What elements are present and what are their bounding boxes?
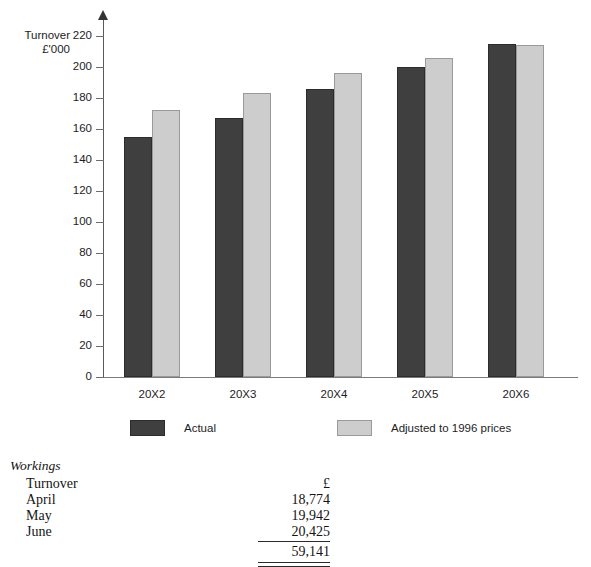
bar-group-20X5	[397, 36, 453, 377]
workings-row: May19,942	[0, 508, 591, 524]
legend-item-1[interactable]: Actual	[130, 420, 216, 436]
workings-row-value: £	[258, 476, 330, 492]
chart-legend: ActualAdjusted to 1996 prices	[0, 420, 591, 446]
y-axis-tick-label-100: 100	[52, 216, 92, 228]
y-axis-tick-100	[96, 222, 104, 223]
y-axis-tick-label-0: 0	[52, 371, 92, 383]
workings-row-value: 18,774	[258, 492, 330, 508]
legend-label-1: Actual	[184, 422, 216, 435]
workings-row-label: May	[26, 508, 52, 524]
y-axis-tick-label-120: 120	[52, 185, 92, 197]
y-axis-tick-220	[96, 36, 104, 37]
y-axis-tick-label-200: 200	[52, 61, 92, 73]
workings-row: June20,425	[0, 524, 591, 540]
bar-20X5-adjusted[interactable]	[425, 58, 453, 377]
bar-20X6-actual[interactable]	[488, 44, 516, 377]
workings-row-label: April	[26, 492, 56, 508]
workings-total-double-rule	[258, 562, 330, 567]
bar-20X4-actual[interactable]	[306, 89, 334, 377]
x-axis-label-20X5: 20X5	[390, 388, 460, 400]
workings-row-label: Turnover	[26, 476, 78, 492]
y-axis-tick-20	[96, 346, 104, 347]
y-axis-tick-60	[96, 284, 104, 285]
y-axis-tick-200	[96, 67, 104, 68]
y-axis-tick-160	[96, 129, 104, 130]
y-axis-tick-120	[96, 191, 104, 192]
legend-swatch-actual	[130, 420, 165, 436]
legend-swatch-adjusted	[337, 420, 372, 436]
y-axis-tick-label-60: 60	[52, 278, 92, 290]
y-axis-tick-label-140: 140	[52, 154, 92, 166]
workings-row: April18,774	[0, 492, 591, 508]
bar-group-20X6	[488, 36, 544, 377]
workings-row-value: 19,942	[258, 508, 330, 524]
x-axis-label-20X6: 20X6	[481, 388, 551, 400]
workings-heading: Workings	[10, 458, 61, 473]
bar-20X2-adjusted[interactable]	[152, 110, 180, 377]
y-axis-tick-label-160: 160	[52, 123, 92, 135]
y-axis-tick-label-220: 220	[52, 30, 92, 42]
legend-item-2[interactable]: Adjusted to 1996 prices	[337, 420, 511, 436]
workings-total-value: 59,141	[258, 544, 330, 560]
y-axis-title-line-2: £'000	[4, 42, 70, 56]
workings-total-row: 59,141	[0, 544, 591, 560]
bar-group-20X3	[215, 36, 271, 377]
bar-group-20X4	[306, 36, 362, 377]
x-axis-label-20X3: 20X3	[208, 388, 278, 400]
workings-subtotal-rule	[258, 541, 330, 542]
x-axis-line	[103, 377, 578, 378]
y-axis-arrow-icon	[98, 10, 108, 20]
y-axis-tick-180	[96, 98, 104, 99]
bar-chart: Turnover £'000 0204060801001201401601802…	[0, 0, 591, 412]
y-axis-tick-label-40: 40	[52, 309, 92, 321]
bar-20X5-actual[interactable]	[397, 67, 425, 377]
y-axis-tick-0	[96, 377, 104, 378]
workings-row-label: June	[26, 524, 52, 540]
workings-row-value: 20,425	[258, 524, 330, 540]
y-axis-tick-40	[96, 315, 104, 316]
bar-20X4-adjusted[interactable]	[334, 73, 362, 377]
y-axis-tick-label-20: 20	[52, 340, 92, 352]
bar-20X3-actual[interactable]	[215, 118, 243, 377]
x-axis-label-20X2: 20X2	[117, 388, 187, 400]
bar-group-20X2	[124, 36, 180, 377]
y-axis-tick-140	[96, 160, 104, 161]
y-axis-tick-label-180: 180	[52, 92, 92, 104]
y-axis-tick-80	[96, 253, 104, 254]
workings-row: Turnover£	[0, 476, 591, 492]
bar-20X3-adjusted[interactable]	[243, 93, 271, 377]
y-axis-tick-label-80: 80	[52, 247, 92, 259]
legend-label-2: Adjusted to 1996 prices	[391, 422, 511, 435]
bar-20X2-actual[interactable]	[124, 137, 152, 377]
x-axis-label-20X4: 20X4	[299, 388, 369, 400]
y-axis-line	[103, 18, 104, 377]
bar-20X6-adjusted[interactable]	[516, 45, 544, 377]
